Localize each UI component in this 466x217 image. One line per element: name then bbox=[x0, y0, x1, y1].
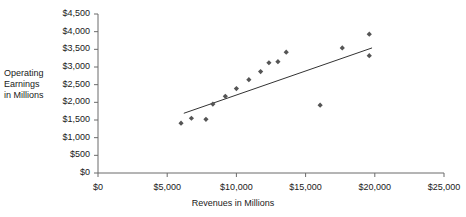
axes bbox=[98, 14, 444, 173]
data-point-marker bbox=[258, 69, 263, 74]
data-point-marker bbox=[367, 53, 372, 58]
data-point-marker bbox=[284, 50, 289, 55]
data-point-marker bbox=[234, 86, 239, 91]
data-point-marker bbox=[266, 60, 271, 65]
data-points bbox=[178, 32, 371, 126]
x-axis-tick-marks bbox=[98, 173, 444, 177]
data-point-marker bbox=[246, 77, 251, 82]
data-point-marker bbox=[189, 116, 194, 121]
y-axis-tick-marks bbox=[94, 14, 98, 173]
data-point-marker bbox=[275, 59, 280, 64]
data-point-marker bbox=[340, 45, 345, 50]
data-point-marker bbox=[318, 103, 323, 108]
data-point-marker bbox=[203, 117, 208, 122]
data-point-marker bbox=[178, 121, 183, 126]
data-point-marker bbox=[367, 32, 372, 37]
scatter-chart: Operating Earnings in Millions Revenues … bbox=[0, 0, 466, 217]
plot-area bbox=[0, 0, 466, 217]
